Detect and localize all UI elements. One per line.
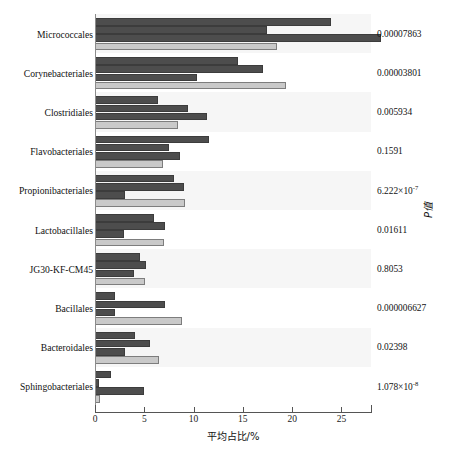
category-label: Lactobacillales bbox=[0, 224, 93, 235]
bar bbox=[95, 261, 146, 269]
bar-group bbox=[95, 14, 371, 53]
bar bbox=[95, 270, 134, 278]
bar bbox=[95, 356, 159, 364]
bar bbox=[95, 214, 154, 222]
bar bbox=[95, 317, 182, 325]
bar bbox=[95, 160, 163, 168]
bar-group bbox=[95, 132, 371, 171]
category-label: Micrococcales bbox=[0, 28, 93, 39]
category-label: Flavobacteriales bbox=[0, 146, 93, 157]
p-value: 0.005934 bbox=[377, 107, 412, 117]
p-value: 1.078×10-8 bbox=[377, 380, 418, 392]
bar bbox=[95, 230, 124, 238]
bar bbox=[95, 253, 140, 261]
p-value: 0.01611 bbox=[377, 225, 407, 235]
category-labels: MicrococcalesCorynebacterialesClostridia… bbox=[0, 0, 93, 460]
x-axis-line bbox=[95, 412, 371, 413]
bar bbox=[95, 348, 125, 356]
x-tick-label: 5 bbox=[142, 414, 147, 424]
bar bbox=[95, 18, 331, 26]
bar bbox=[95, 82, 286, 90]
x-axis-endcap bbox=[95, 405, 96, 413]
category-label: Bacillales bbox=[0, 303, 93, 314]
bar bbox=[95, 136, 209, 144]
x-tick-label: 0 bbox=[93, 414, 98, 424]
category-label: Bacteroidales bbox=[0, 342, 93, 353]
p-value: 6.222×10-7 bbox=[377, 184, 418, 196]
bar bbox=[95, 121, 178, 129]
bar-group bbox=[95, 367, 371, 406]
bar-group bbox=[95, 328, 371, 367]
bar bbox=[95, 387, 144, 395]
p-value: 0.00007863 bbox=[377, 29, 422, 39]
p-value: 0.000006627 bbox=[377, 303, 426, 313]
bar bbox=[95, 113, 207, 121]
bar-group bbox=[95, 210, 371, 249]
category-label: Sphingobacteriales bbox=[0, 381, 93, 392]
bars-layer bbox=[95, 14, 371, 406]
bar bbox=[95, 301, 165, 309]
bar bbox=[95, 96, 158, 104]
x-tick bbox=[341, 407, 342, 413]
x-tick bbox=[144, 407, 145, 413]
p-value: 0.02398 bbox=[377, 342, 407, 352]
horizontal-bar-chart: 0510152025 MicrococcalesCorynebacteriale… bbox=[0, 0, 452, 460]
bar bbox=[95, 191, 125, 199]
bar bbox=[95, 74, 197, 82]
p-value-column: 0.000078630.000038010.0059340.15916.222×… bbox=[371, 0, 441, 460]
bar-group bbox=[95, 53, 371, 92]
bar bbox=[95, 332, 135, 340]
bar bbox=[95, 57, 238, 65]
right-axis-title: P值 bbox=[420, 202, 435, 218]
bar bbox=[95, 105, 188, 113]
bar bbox=[95, 371, 111, 379]
bar bbox=[95, 65, 263, 73]
bar-group bbox=[95, 288, 371, 327]
bar bbox=[95, 278, 145, 286]
bar bbox=[95, 183, 184, 191]
bar bbox=[95, 43, 277, 51]
x-tick bbox=[194, 407, 195, 413]
bar bbox=[95, 239, 164, 247]
x-tick bbox=[292, 407, 293, 413]
bar bbox=[95, 175, 174, 183]
x-tick-label: 25 bbox=[337, 414, 347, 424]
bar bbox=[95, 309, 115, 317]
x-tick-label: 15 bbox=[238, 414, 248, 424]
p-value: 0.1591 bbox=[377, 146, 403, 156]
bar-group bbox=[95, 92, 371, 131]
bar bbox=[95, 152, 180, 160]
bar bbox=[95, 199, 185, 207]
category-label: Propionibacteriales bbox=[0, 185, 93, 196]
bar bbox=[95, 26, 267, 34]
p-value: 0.8053 bbox=[377, 264, 403, 274]
category-label: Corynebacteriales bbox=[0, 67, 93, 78]
bar-group bbox=[95, 249, 371, 288]
p-value: 0.00003801 bbox=[377, 68, 422, 78]
bar bbox=[95, 340, 150, 348]
bar bbox=[95, 144, 169, 152]
category-label: JG30-KF-CM45 bbox=[0, 263, 93, 274]
category-label: Clostridiales bbox=[0, 107, 93, 118]
bar-group bbox=[95, 171, 371, 210]
x-tick-label: 10 bbox=[189, 414, 199, 424]
x-tick bbox=[243, 407, 244, 413]
bar bbox=[95, 34, 381, 42]
bar bbox=[95, 292, 115, 300]
bar bbox=[95, 222, 165, 230]
x-axis-title: 平均占比/% bbox=[95, 428, 371, 443]
y-axis-line bbox=[95, 14, 96, 406]
x-tick-label: 20 bbox=[287, 414, 297, 424]
